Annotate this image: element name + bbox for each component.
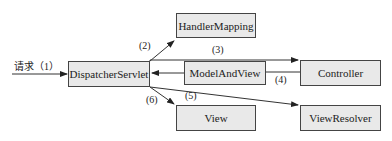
step4-label: (4) <box>275 74 287 85</box>
step3-label: (3) <box>212 44 224 55</box>
node-label: ViewResolver <box>309 112 371 124</box>
node-label: ModelAndView <box>190 67 261 79</box>
node-label: DispatcherServlet <box>70 68 149 80</box>
node-label: View <box>204 112 227 124</box>
request-label: 请求（1） <box>14 58 59 73</box>
step2-label: (2) <box>139 40 151 51</box>
view-node: View <box>176 105 256 131</box>
node-label: Controller <box>318 67 363 79</box>
step6-label: (6) <box>146 94 158 105</box>
view-resolver-node: ViewResolver <box>300 105 381 131</box>
handler-mapping-node: HandlerMapping <box>176 13 256 38</box>
node-label: HandlerMapping <box>178 20 253 32</box>
spring-mvc-flow-diagram: DispatcherServlet HandlerMapping ModelAn… <box>0 0 392 141</box>
model-and-view-node: ModelAndView <box>184 61 266 85</box>
step5-label: (5) <box>185 90 197 101</box>
controller-node: Controller <box>300 60 381 86</box>
dispatcher-servlet-node: DispatcherServlet <box>68 61 150 87</box>
